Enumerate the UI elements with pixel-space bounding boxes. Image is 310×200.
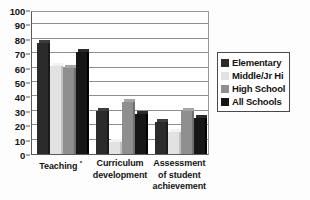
x-category-label-line: achievement: [144, 181, 215, 193]
bar-face: [109, 142, 120, 154]
bar-top-face: [183, 108, 194, 111]
bar: [122, 102, 133, 154]
chart-legend: ElementaryMiddle/Jr HiHigh SchoolAll Sch…: [217, 52, 290, 112]
legend-swatch-icon: [221, 85, 229, 93]
x-category-label: Assessmentof studentachievement: [144, 158, 215, 193]
y-tick-mark-0: [26, 155, 30, 156]
bar: [135, 114, 146, 154]
legend-item[interactable]: Middle/Jr Hi: [221, 69, 285, 82]
legend-swatch-icon: [221, 72, 229, 80]
y-tick-mark-60: [26, 68, 30, 69]
bar: [50, 66, 61, 154]
legend-label: All Schools: [232, 96, 282, 107]
y-tick-label-100: 100: [10, 6, 25, 17]
bar-top-face: [111, 139, 122, 142]
bar-top-face: [39, 40, 50, 43]
bar-side-face: [205, 115, 207, 154]
y-tick-label-60: 60: [15, 63, 25, 74]
y-tick-mark-40: [26, 97, 30, 98]
bar-top-face: [196, 115, 207, 118]
bar-group: [91, 12, 150, 154]
bar-group: [32, 12, 91, 154]
y-tick-label-50: 50: [15, 78, 25, 89]
bar: [76, 52, 87, 154]
bar-side-face: [87, 49, 89, 154]
bar-top-face: [170, 129, 181, 132]
y-tick-label-70: 70: [15, 49, 25, 60]
bar: [37, 43, 48, 154]
legend-label: Elementary: [232, 57, 281, 68]
legend-label: Middle/Jr Hi: [232, 70, 283, 81]
bar-top-face: [65, 65, 76, 68]
legend-item[interactable]: High School: [221, 82, 285, 95]
y-tick-label-90: 90: [15, 20, 25, 31]
bar-face: [181, 111, 192, 154]
bar-face: [168, 132, 179, 154]
bar-top-face: [137, 111, 148, 114]
y-tick-mark-70: [26, 54, 30, 55]
bar: [96, 111, 107, 154]
y-tick-mark-80: [26, 39, 30, 40]
bar-top-face: [157, 119, 168, 122]
bar-top-face: [78, 49, 89, 52]
x-category-label-line: Assessment: [144, 158, 215, 170]
y-tick-mark-10: [26, 140, 30, 141]
y-tick-mark-50: [26, 83, 30, 84]
y-tick-label-30: 30: [15, 106, 25, 117]
legend-label: High School: [232, 83, 285, 94]
legend-item[interactable]: All Schools: [221, 95, 285, 108]
y-axis: 0102030405060708090100: [0, 0, 30, 156]
legend-item[interactable]: Elementary: [221, 56, 285, 69]
y-tick-mark-100: [26, 11, 30, 12]
bar-face: [155, 122, 166, 154]
x-axis: Teaching *CurriculumdevelopmentAssessmen…: [31, 158, 209, 200]
bar: [168, 132, 179, 154]
bar: [155, 122, 166, 154]
bar-face: [194, 118, 205, 154]
bar: [109, 142, 120, 154]
y-tick-mark-20: [26, 126, 30, 127]
bar-top-face: [124, 99, 135, 102]
bar-top-face: [52, 63, 63, 66]
bar-face: [37, 43, 48, 154]
legend-swatch-icon: [221, 98, 229, 106]
bar-face: [63, 68, 74, 154]
bar: [181, 111, 192, 154]
bar: [194, 118, 205, 154]
bar-chart: 0102030405060708090100 Teaching *Curricu…: [0, 0, 310, 200]
y-tick-label-10: 10: [15, 135, 25, 146]
bar-face: [50, 66, 61, 154]
y-tick-mark-30: [26, 111, 30, 112]
legend-swatch-icon: [221, 59, 229, 67]
bar-top-face: [98, 108, 109, 111]
plot-area: [31, 11, 209, 155]
bar-group: [151, 12, 210, 154]
bar-face: [122, 102, 133, 154]
x-category-label-line: of student: [144, 170, 215, 182]
y-tick-label-40: 40: [15, 92, 25, 103]
y-tick-label-20: 20: [15, 121, 25, 132]
bar-face: [76, 52, 87, 154]
bar-face: [135, 114, 146, 154]
y-tick-mark-90: [26, 25, 30, 26]
y-tick-label-80: 80: [15, 34, 25, 45]
bar-side-face: [146, 111, 148, 154]
bar-face: [96, 111, 107, 154]
bar: [63, 68, 74, 154]
